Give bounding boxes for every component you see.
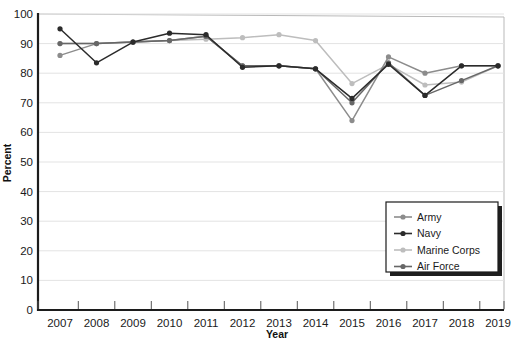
x-tick-label: 2014: [303, 317, 329, 329]
legend-item-label: Navy: [417, 227, 442, 239]
legend-item-label: Marine Corps: [417, 244, 480, 256]
y-tick-label: 80: [20, 67, 33, 79]
series-marine-corps: [57, 32, 500, 87]
x-tick-label: 2019: [485, 317, 511, 329]
y-tick-label: 20: [20, 245, 33, 257]
y-axis-tick-labels: 0102030405060708090100: [14, 8, 33, 316]
legend-marker-icon: [400, 264, 405, 269]
x-tick-label: 2010: [157, 317, 183, 329]
y-tick-label: 50: [20, 156, 33, 168]
data-point: [94, 41, 99, 46]
data-point: [203, 32, 208, 37]
data-point: [130, 40, 135, 45]
series-line: [60, 36, 498, 120]
chart-canvas: 0102030405060708090100 20072008200920102…: [0, 0, 513, 344]
data-point: [167, 31, 172, 36]
legend-item-label: Air Force: [417, 260, 460, 272]
data-point: [313, 38, 318, 43]
data-point: [276, 63, 281, 68]
y-tick-label: 60: [20, 126, 33, 138]
legend-item-label: Army: [417, 211, 442, 223]
x-tick-label: 2015: [339, 317, 365, 329]
data-point: [349, 81, 354, 86]
data-point: [495, 63, 500, 68]
x-tick-label: 2011: [194, 317, 219, 329]
data-point: [94, 60, 99, 65]
data-point: [386, 54, 391, 59]
x-tick-label: 2012: [230, 317, 256, 329]
data-point: [349, 118, 354, 123]
y-tick-label: 10: [20, 274, 33, 286]
y-tick-label: 30: [20, 215, 33, 227]
y-tick-label: 0: [27, 304, 33, 316]
data-point: [167, 38, 172, 43]
y-tick-label: 40: [20, 186, 33, 198]
line-chart: 0102030405060708090100 20072008200920102…: [0, 0, 513, 344]
x-axis-ticks: [38, 301, 504, 309]
data-point: [313, 66, 318, 71]
data-point: [276, 32, 281, 37]
legend: ArmyNavyMarine CorpsAir Force: [386, 202, 502, 276]
legend-marker-icon: [400, 247, 405, 252]
data-point: [57, 41, 62, 46]
data-point: [459, 63, 464, 68]
x-tick-label: 2008: [84, 317, 110, 329]
data-point: [422, 71, 427, 76]
data-point: [422, 93, 427, 98]
x-tick-label: 2009: [120, 317, 146, 329]
data-point: [240, 35, 245, 40]
y-axis-title: Percent: [1, 143, 13, 182]
x-tick-label: 2018: [449, 317, 475, 329]
y-tick-label: 100: [14, 8, 33, 20]
legend-marker-icon: [400, 214, 405, 219]
x-tick-label: 2017: [412, 317, 438, 329]
data-point: [57, 26, 62, 31]
data-point: [57, 53, 62, 58]
data-point: [422, 82, 427, 87]
x-tick-label: 2016: [376, 317, 402, 329]
legend-marker-icon: [400, 231, 405, 236]
data-point: [240, 65, 245, 70]
data-point: [349, 96, 354, 101]
y-tick-label: 70: [20, 97, 33, 109]
x-axis-title: Year: [266, 328, 288, 340]
series-air-force: [57, 34, 500, 106]
data-point: [386, 62, 391, 67]
series-navy: [57, 26, 500, 101]
data-series-layer: [57, 26, 500, 123]
data-point: [459, 78, 464, 83]
y-tick-label: 90: [20, 38, 33, 50]
x-tick-label: 2007: [47, 317, 73, 329]
